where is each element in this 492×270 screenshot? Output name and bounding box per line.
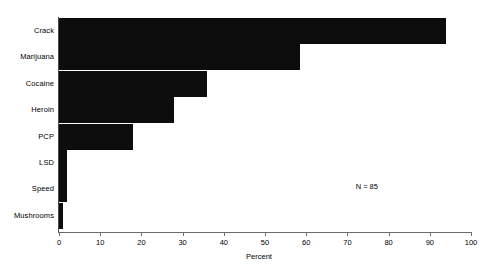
- category-label: Cocaine: [0, 71, 54, 97]
- sample-size-annotation: N = 85: [356, 182, 378, 191]
- bar: [59, 44, 300, 70]
- x-tick-mark: [347, 232, 348, 236]
- bar-row: [59, 71, 471, 97]
- x-tick-label: 50: [250, 238, 280, 247]
- x-tick-mark: [59, 232, 60, 236]
- category-label-wrap: Heroin: [0, 97, 54, 123]
- category-label: PCP: [0, 124, 54, 150]
- bar-row: [59, 97, 471, 123]
- x-tick-label: 40: [209, 238, 239, 247]
- category-label: Heroin: [0, 97, 54, 123]
- category-label: Crack: [0, 18, 54, 44]
- category-label-wrap: LSD: [0, 150, 54, 176]
- category-label: Speed: [0, 176, 54, 202]
- x-tick-label: 20: [126, 238, 156, 247]
- x-tick-label: 90: [415, 238, 445, 247]
- bar-row: [59, 44, 471, 70]
- bar: [59, 124, 133, 150]
- category-label: LSD: [0, 150, 54, 176]
- x-tick-mark: [389, 232, 390, 236]
- category-label: Mushrooms: [0, 203, 54, 229]
- bar: [59, 203, 63, 229]
- x-tick-label: 0: [44, 238, 74, 247]
- x-tick-label: 80: [374, 238, 404, 247]
- bar: [59, 71, 207, 97]
- x-tick-mark: [471, 232, 472, 236]
- x-axis-title-label: Percent: [246, 252, 272, 261]
- category-label-wrap: Marijuana: [0, 44, 54, 70]
- x-tick-label: 10: [85, 238, 115, 247]
- x-tick-mark: [430, 232, 431, 236]
- bar: [59, 97, 174, 123]
- bar-row: [59, 150, 471, 176]
- x-tick-mark: [224, 232, 225, 236]
- bar-row: [59, 124, 471, 150]
- x-axis-title: Percent: [0, 252, 492, 261]
- x-tick-label: 60: [291, 238, 321, 247]
- bar: [59, 176, 67, 202]
- x-tick-label: 100: [456, 238, 486, 247]
- x-tick-mark: [183, 232, 184, 236]
- category-label-wrap: Mushrooms: [0, 203, 54, 229]
- x-tick-label: 70: [332, 238, 362, 247]
- bar-row: [59, 176, 471, 202]
- category-label-wrap: Speed: [0, 176, 54, 202]
- bar-chart-figure: CrackMarijuanaCocaineHeroinPCPLSDSpeedMu…: [0, 0, 492, 270]
- x-tick-mark: [141, 232, 142, 236]
- bar-row: [59, 18, 471, 44]
- category-label-wrap: Cocaine: [0, 71, 54, 97]
- category-label-wrap: Crack: [0, 18, 54, 44]
- bar: [59, 150, 67, 176]
- x-tick-mark: [265, 232, 266, 236]
- x-tick-mark: [100, 232, 101, 236]
- bar-row: [59, 203, 471, 229]
- x-tick-mark: [306, 232, 307, 236]
- x-tick-label: 30: [168, 238, 198, 247]
- bar: [59, 18, 446, 44]
- category-label: Marijuana: [0, 44, 54, 70]
- category-label-wrap: PCP: [0, 124, 54, 150]
